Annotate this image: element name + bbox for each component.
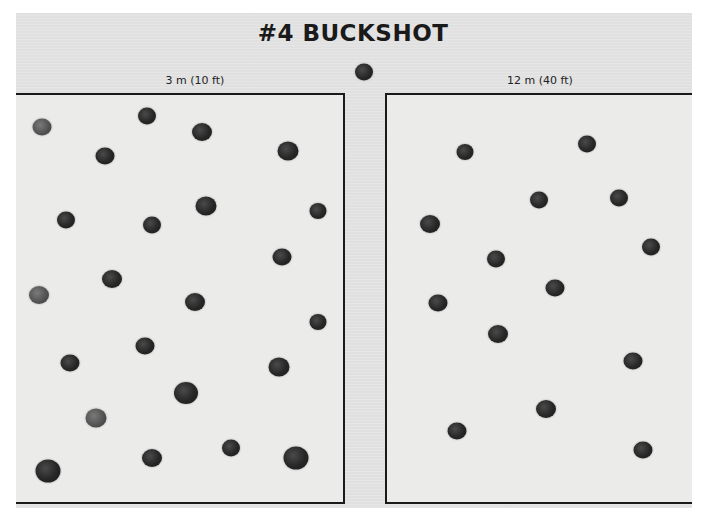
pellet-right	[546, 280, 565, 297]
pellet-left	[278, 142, 299, 161]
pellet-right	[429, 295, 448, 312]
panel-label-right: 12 m (40 ft)	[465, 74, 615, 87]
pellet-left	[185, 293, 205, 311]
pellet-right	[578, 136, 596, 153]
pellet-right	[448, 423, 467, 440]
pellet-right	[610, 190, 628, 207]
pellet-left	[138, 108, 156, 125]
pellet-left	[269, 358, 290, 377]
pellet-left	[136, 338, 155, 355]
pellet-right	[488, 325, 508, 343]
pellet-right	[642, 239, 660, 256]
pellet-left	[284, 447, 309, 470]
pellet-right	[420, 215, 440, 233]
pellet-left	[33, 119, 52, 136]
pellet-right	[536, 400, 556, 418]
pellet-right	[457, 144, 474, 160]
pellet-right	[634, 442, 653, 459]
pellet-left	[29, 286, 49, 304]
pellet-right	[487, 251, 505, 268]
pellet-left	[196, 197, 217, 216]
pellet-left	[222, 440, 240, 457]
pellet-left	[57, 212, 75, 229]
pellet-right	[624, 353, 643, 370]
pellet-left	[273, 249, 292, 266]
pellet-left	[86, 409, 107, 428]
pellet-left	[174, 382, 198, 404]
pellet-left	[143, 217, 161, 234]
pellet-right	[530, 192, 548, 209]
pellet-left	[102, 270, 122, 288]
pellet-center	[355, 64, 373, 81]
pellet-left	[61, 355, 80, 372]
pellet-left	[96, 148, 115, 165]
page-title: #4 BUCKSHOT	[0, 20, 706, 46]
pellet-left	[310, 203, 327, 219]
pellet-left	[310, 314, 327, 330]
pellet-left	[192, 123, 212, 141]
panel-label-left: 3 m (10 ft)	[120, 74, 270, 87]
pellet-left	[36, 460, 61, 483]
pellet-left	[142, 449, 162, 467]
